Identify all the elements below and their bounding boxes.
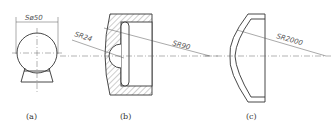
caption-a: (a) — [26, 112, 37, 121]
dimension-label-a: Sø50 — [25, 14, 43, 22]
figure-c: SR2000 (c) — [205, 14, 331, 121]
figure-a: Sø50 (a) — [12, 14, 62, 121]
technical-drawing: Sø50 (a) SR24 SR90 (b) SR2000 (c) — [0, 0, 331, 130]
caption-c: (c) — [246, 112, 257, 121]
dimension-label-sr90: SR90 — [171, 39, 191, 52]
figure-b: SR24 SR90 (b) — [60, 14, 218, 121]
caption-b: (b) — [120, 112, 131, 121]
